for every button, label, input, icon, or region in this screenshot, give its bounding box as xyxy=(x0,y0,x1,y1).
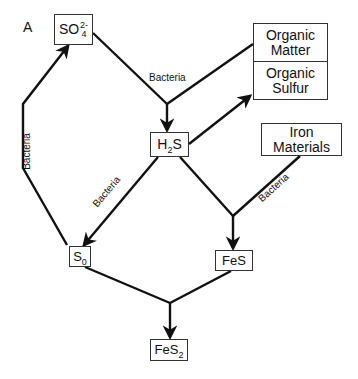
organic-sulfur-line2: Sulfur xyxy=(272,81,309,96)
fes2-formula: FeS2 xyxy=(155,343,184,357)
sulfate-formula: SO2-4 xyxy=(59,21,88,39)
node-organic-sulfur: Organic Sulfur xyxy=(253,61,328,100)
node-fes2: FeS2 xyxy=(150,339,188,361)
node-organic-matter: Organic Matter xyxy=(253,23,328,63)
s0-formula: S0 xyxy=(73,250,87,264)
edge-sulfate-to-junction xyxy=(93,33,167,104)
node-sulfate: SO2-4 xyxy=(54,14,93,45)
node-iron-materials: Iron Materials xyxy=(261,123,342,156)
edge-h2s-to-organic-sulfur xyxy=(189,96,250,144)
edge-h2s-to-fes-junction xyxy=(180,157,233,216)
h2s-formula: H2S xyxy=(157,137,181,152)
node-h2s: H2S xyxy=(150,132,189,157)
iron-materials-line2: Materials xyxy=(273,140,330,155)
sulfate-subscript: 4 xyxy=(80,30,88,39)
label-sulfate-to-h2s: Bacteria xyxy=(149,72,186,83)
panel-label: A xyxy=(23,19,32,35)
iron-materials-line1: Iron xyxy=(289,125,313,140)
edge-fes-to-fes2-junction xyxy=(170,271,231,303)
organic-sulfur-line1: Organic xyxy=(266,66,315,81)
label-s0-to-sulfate: Bacteria xyxy=(21,133,32,170)
node-fes: FeS xyxy=(215,250,253,271)
node-s0: S0 xyxy=(69,246,91,267)
edge-s0-to-fes2-junction xyxy=(85,267,170,303)
fes-label: FeS xyxy=(222,254,246,268)
organic-matter-line1: Organic xyxy=(266,28,315,43)
organic-matter-line2: Matter xyxy=(271,43,311,58)
